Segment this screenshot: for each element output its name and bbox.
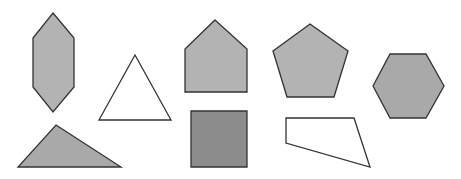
square-shape [191,111,247,167]
quadrilateral-shape [286,118,370,167]
house-pentagon-shape [185,20,247,92]
scalene-triangle-shape [18,125,121,167]
shapes-diagram [0,0,461,179]
regular-pentagon-shape [273,24,348,97]
regular-hexagon-shape [373,54,444,118]
elongated-hexagon-shape [33,13,74,112]
equilateral-triangle-shape [99,55,171,120]
